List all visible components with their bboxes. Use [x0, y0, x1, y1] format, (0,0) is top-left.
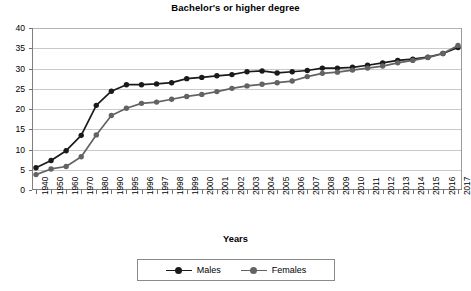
- legend-label-females: Females: [272, 265, 307, 275]
- legend-item-females[interactable]: Females: [241, 265, 307, 275]
- data-point: [214, 73, 219, 78]
- data-point: [184, 76, 189, 81]
- data-point: [305, 68, 310, 73]
- data-point: [274, 70, 279, 75]
- data-point: [48, 158, 53, 163]
- x-axis-tick-label: 2007: [311, 177, 321, 195]
- x-axis-tick-label: 1996: [145, 177, 155, 195]
- x-axis-tick-label: 1980: [100, 177, 110, 195]
- data-point: [380, 63, 385, 68]
- legend-key-females: [241, 266, 267, 275]
- data-point: [63, 148, 68, 153]
- data-point: [199, 92, 204, 97]
- data-point: [169, 80, 174, 85]
- x-axis-tick-label: 2015: [431, 177, 441, 195]
- series-line: [36, 47, 458, 167]
- y-axis: 0510152025303540: [0, 28, 30, 190]
- data-point: [244, 69, 249, 74]
- data-point: [214, 89, 219, 94]
- data-point: [94, 132, 99, 137]
- y-axis-tick-label: 10: [15, 145, 25, 155]
- data-point: [229, 72, 234, 77]
- data-point: [425, 55, 430, 60]
- data-point: [79, 154, 84, 159]
- x-axis-tick-label: 2003: [251, 177, 261, 195]
- x-axis-tick-label: 2010: [356, 177, 366, 195]
- x-axis-tick-label: 1950: [55, 177, 65, 195]
- data-point: [109, 113, 114, 118]
- data-point: [259, 68, 264, 73]
- data-point: [455, 43, 460, 48]
- data-point: [79, 133, 84, 138]
- data-point: [33, 172, 38, 177]
- y-axis-tick-label: 30: [15, 64, 25, 74]
- x-axis-tick-label: 1995: [130, 177, 140, 195]
- legend-key-males: [166, 266, 192, 275]
- y-axis-tick-label: 35: [15, 43, 25, 53]
- x-axis-tick-label: 2005: [281, 177, 291, 195]
- legend-item-males[interactable]: Males: [166, 265, 221, 275]
- data-point: [169, 97, 174, 102]
- data-point: [244, 83, 249, 88]
- x-axis-tick-label: 2002: [236, 177, 246, 195]
- x-axis-tick-label: 2012: [386, 177, 396, 195]
- data-point: [154, 99, 159, 104]
- data-point: [410, 58, 415, 63]
- data-point: [395, 60, 400, 65]
- x-axis-tick-label: 1940: [40, 177, 50, 195]
- x-axis-tick-label: 1998: [175, 177, 185, 195]
- data-point: [440, 51, 445, 56]
- x-axis-tick-label: 2013: [401, 177, 411, 195]
- data-point: [109, 88, 114, 93]
- x-axis-tick-label: 2009: [341, 177, 351, 195]
- data-point: [320, 71, 325, 76]
- data-point: [33, 165, 38, 170]
- y-axis-tick-label: 25: [15, 84, 25, 94]
- x-axis-tick-label: 2014: [416, 177, 426, 195]
- y-axis-tick-label: 0: [20, 185, 25, 195]
- data-point: [139, 101, 144, 106]
- x-axis-tick-label: 1970: [85, 177, 95, 195]
- x-axis-tick-label: 2000: [205, 177, 215, 195]
- chart-container: Bachelor's or higher degree 051015202530…: [0, 0, 471, 291]
- data-point: [63, 164, 68, 169]
- series-line: [36, 45, 458, 174]
- x-axis-tick-label: 2016: [447, 177, 457, 195]
- y-axis-tick-label: 15: [15, 124, 25, 134]
- data-point: [320, 65, 325, 70]
- data-point: [154, 81, 159, 86]
- data-point: [124, 82, 129, 87]
- x-axis-tick-label: 1990: [115, 177, 125, 195]
- x-axis-tick-label: 2006: [296, 177, 306, 195]
- data-point: [124, 105, 129, 110]
- data-point: [335, 69, 340, 74]
- data-point: [199, 75, 204, 80]
- data-point: [94, 103, 99, 108]
- x-axis-title: Years: [0, 234, 471, 244]
- y-axis-tick-label: 20: [15, 104, 25, 114]
- data-point: [350, 67, 355, 72]
- x-axis-tick-label: 2017: [462, 177, 471, 195]
- data-point: [184, 94, 189, 99]
- data-point: [305, 74, 310, 79]
- data-point: [259, 82, 264, 87]
- y-axis-tick-label: 5: [20, 165, 25, 175]
- data-point: [274, 80, 279, 85]
- x-axis-tick-label: 2004: [266, 177, 276, 195]
- x-axis-tick-label: 2001: [220, 177, 230, 195]
- data-point: [290, 78, 295, 83]
- chart-legend: Males Females: [137, 259, 335, 281]
- x-axis-tick-label: 2011: [371, 177, 381, 195]
- x-axis-tick-label: 1960: [70, 177, 80, 195]
- x-axis-tick-label: 1999: [190, 177, 200, 195]
- data-point: [48, 166, 53, 171]
- data-point: [365, 65, 370, 70]
- data-point: [290, 69, 295, 74]
- x-axis-tick-label: 1997: [160, 177, 170, 195]
- data-point: [139, 82, 144, 87]
- series-layer: [32, 28, 462, 190]
- legend-label-males: Males: [197, 265, 221, 275]
- x-axis-labels: 1940195019601970198019901995199619971998…: [32, 194, 462, 232]
- data-point: [229, 86, 234, 91]
- y-axis-tick-label: 40: [15, 23, 25, 33]
